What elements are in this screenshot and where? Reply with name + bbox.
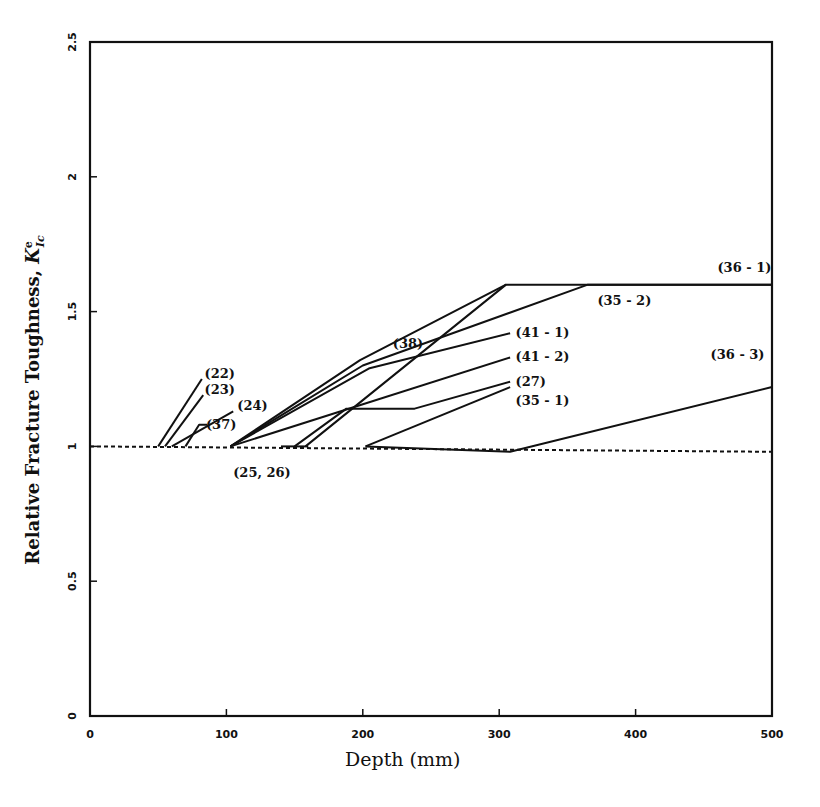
y-axis-sub: Ic xyxy=(33,235,46,247)
series-label: (38) xyxy=(393,336,423,351)
y-tick-label: 1 xyxy=(66,443,79,451)
x-tick-label: 300 xyxy=(488,728,511,741)
y-axis-title-text: Relative Fracture Toughness, xyxy=(22,270,43,565)
series-label: (27) xyxy=(516,374,546,389)
y-tick-label: 0 xyxy=(66,712,79,720)
series-label: (24) xyxy=(237,398,267,413)
x-tick-label: 500 xyxy=(761,728,784,741)
series-line xyxy=(230,357,510,446)
x-axis-title: Depth (mm) xyxy=(345,748,460,770)
series-label: (36 - 1) xyxy=(717,260,771,275)
y-axis-title: Relative Fracture Toughness, KeIc xyxy=(14,190,54,610)
series-label: (41 - 2) xyxy=(516,349,570,364)
series-line xyxy=(306,285,772,447)
series-label: (22) xyxy=(205,366,235,381)
y-tick-label: 2 xyxy=(66,173,79,181)
y-tick-label: 1.5 xyxy=(66,302,79,322)
series-label: (35 - 1) xyxy=(516,393,570,408)
series-lines xyxy=(90,285,772,452)
y-tick-label: 0.5 xyxy=(66,571,79,591)
chart-canvas: 010020030040050000.511.522.5 (22)(23)(24… xyxy=(0,0,820,807)
y-tick-label: 2.5 xyxy=(66,32,79,52)
series-line xyxy=(230,333,510,446)
series-label: (35 - 2) xyxy=(597,293,651,308)
y-axis-symbol: K xyxy=(22,248,43,264)
series-label: (36 - 3) xyxy=(711,347,765,362)
axis-ticks: 010020030040050000.511.522.5 xyxy=(66,32,784,741)
series-line xyxy=(230,285,772,447)
x-tick-label: 400 xyxy=(624,728,647,741)
series-line xyxy=(158,379,202,446)
series-label: (41 - 1) xyxy=(516,325,570,340)
x-tick-label: 0 xyxy=(86,728,94,741)
x-tick-label: 200 xyxy=(351,728,374,741)
plot-frame xyxy=(90,42,772,716)
series-label: (25, 26) xyxy=(233,465,291,480)
x-tick-label: 100 xyxy=(215,728,238,741)
series-label: (37) xyxy=(206,417,236,432)
series-label: (23) xyxy=(205,382,235,397)
